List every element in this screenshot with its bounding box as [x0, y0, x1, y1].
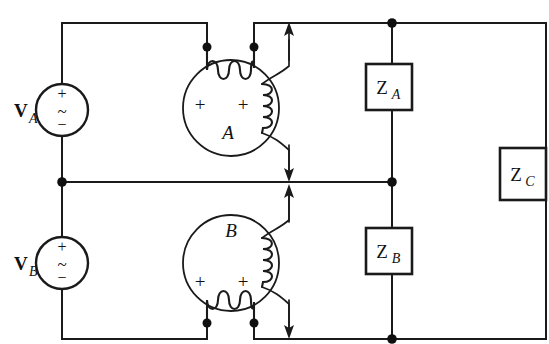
machine-b-plus-right: +: [238, 271, 249, 292]
circuit-diagram: + ~ − V A + ~ − V B + + A: [0, 0, 549, 344]
impedance-b-subscript: B: [392, 251, 401, 266]
machine-a-plus-right: +: [238, 94, 249, 115]
impedance-a-label: Z: [376, 77, 388, 98]
arrow-b-up-icon: [284, 184, 294, 222]
impedance-a-subscript: A: [391, 87, 401, 102]
impedance-a-box: [366, 64, 412, 110]
machine-b-label: B: [225, 220, 237, 241]
impedance-b-box: [366, 228, 412, 274]
machine-b[interactable]: + + B: [183, 194, 289, 329]
impedance-c[interactable]: Z C: [500, 148, 546, 200]
source-b-minus: −: [57, 269, 66, 286]
source-a-label: V: [14, 100, 28, 121]
node-right-bottom: [387, 334, 397, 344]
source-a[interactable]: + ~ − V A: [14, 84, 88, 136]
source-a-label-subscript: A: [28, 111, 38, 126]
wiring-frame: [62, 23, 546, 339]
machine-a[interactable]: + + A: [183, 40, 289, 170]
impedance-b-label: Z: [376, 241, 388, 262]
source-a-minus: −: [57, 116, 66, 133]
machine-a-plus-left: +: [195, 94, 206, 115]
impedance-c-label: Z: [510, 164, 522, 185]
impedance-c-subscript: C: [525, 174, 535, 189]
node-right-mid: [387, 177, 397, 187]
impedance-b[interactable]: Z B: [366, 228, 412, 274]
node-left-mid: [57, 177, 67, 187]
source-b[interactable]: + ~ − V B: [14, 237, 88, 289]
machine-a-label: A: [220, 122, 234, 143]
node-machine-a-right: [250, 43, 259, 52]
source-b-label-subscript: B: [29, 264, 38, 279]
arrow-b-down-icon: [284, 300, 294, 339]
impedance-a[interactable]: Z A: [366, 64, 412, 110]
node-machine-b-left: [203, 319, 212, 328]
node-right-top: [387, 18, 397, 28]
circuit-canvas: + ~ − V A + ~ − V B + + A: [0, 0, 549, 344]
source-b-label: V: [14, 253, 28, 274]
node-machine-a-left: [203, 43, 212, 52]
node-machine-b-right: [250, 319, 259, 328]
impedance-c-box: [500, 148, 546, 200]
arrow-a-up-icon: [284, 22, 294, 60]
source-a-plus: +: [57, 85, 66, 102]
source-b-plus: +: [57, 238, 66, 255]
machine-b-plus-left: +: [195, 271, 206, 292]
arrow-a-down-icon: [284, 145, 294, 182]
